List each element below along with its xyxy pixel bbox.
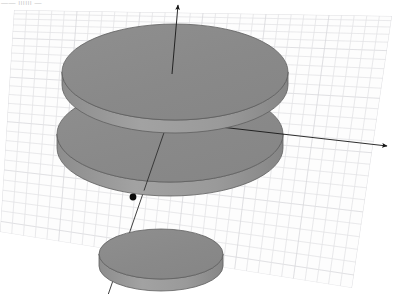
origin-point-marker[interactable] xyxy=(130,194,137,201)
lower-small-disk-top xyxy=(99,229,223,279)
3d-viewport[interactable]: —— ıııııı — xyxy=(0,0,396,294)
scene-canvas[interactable] xyxy=(0,0,396,294)
lower-small-disk[interactable] xyxy=(99,229,223,291)
header-caption-text: —— ıııııı — xyxy=(1,0,42,7)
